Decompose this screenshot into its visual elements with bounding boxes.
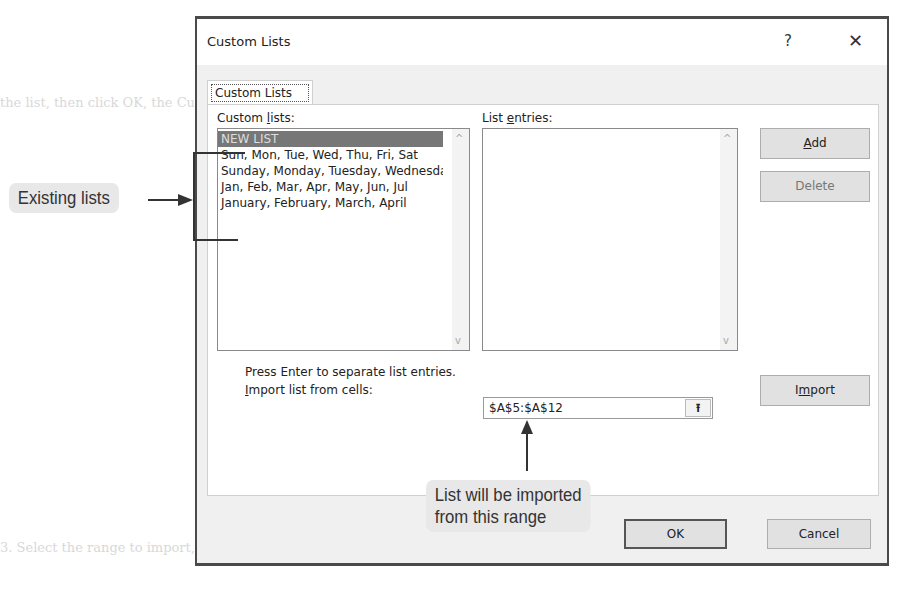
dialog-title: Custom Lists <box>207 34 290 49</box>
bracket-vertical <box>193 152 195 241</box>
tab-label: Custom Lists <box>211 84 309 102</box>
scroll-up-icon[interactable]: ^ <box>455 133 463 144</box>
list-entries-label: List entries: <box>482 111 552 125</box>
import-range-value: $A$5:$A$12 <box>489 401 563 415</box>
scroll-down-icon[interactable]: v <box>455 335 461 346</box>
import-range-label: Import list from cells: <box>245 383 373 397</box>
bracket-top <box>193 152 245 154</box>
help-button[interactable]: ? <box>784 32 792 50</box>
hint-text: Press Enter to separate list entries. <box>245 365 456 379</box>
scroll-up-icon[interactable]: ^ <box>723 133 731 144</box>
dialog-titlebar: Custom Lists ? ✕ <box>197 19 887 65</box>
tab-panel: Custom lists: NEW LIST Sun, Mon, Tue, We… <box>207 104 879 496</box>
import-range-input[interactable]: $A$5:$A$12 ⭱ <box>483 397 713 419</box>
import-button[interactable]: Import <box>760 375 870 406</box>
arrow-right-icon <box>178 194 193 206</box>
list-items: NEW LIST Sun, Mon, Tue, Wed, Thu, Fri, S… <box>218 129 469 211</box>
cancel-button[interactable]: Cancel <box>767 519 871 549</box>
list-item[interactable]: Sunday, Monday, Tuesday, Wednesday <box>218 163 443 179</box>
custom-lists-listbox[interactable]: NEW LIST Sun, Mon, Tue, Wed, Thu, Fri, S… <box>217 128 470 351</box>
callout-arrow-line <box>526 431 528 471</box>
arrow-up-icon <box>521 420 533 434</box>
list-item[interactable]: Sun, Mon, Tue, Wed, Thu, Fri, Sat <box>218 147 443 163</box>
list-entries-textarea[interactable]: ^ v <box>482 128 738 351</box>
list-item[interactable]: January, February, March, April <box>218 195 443 211</box>
callout-arrow-line <box>148 199 181 201</box>
tab-custom-lists[interactable]: Custom Lists <box>207 80 313 104</box>
ok-button[interactable]: OK <box>624 519 727 549</box>
close-button[interactable]: ✕ <box>848 30 863 51</box>
collapse-dialog-icon[interactable]: ⭱ <box>685 399 711 417</box>
scrollbar[interactable]: ^ v <box>452 129 469 350</box>
callout-existing-lists: Existing lists <box>9 183 119 213</box>
scroll-down-icon[interactable]: v <box>723 335 729 346</box>
list-item[interactable]: NEW LIST <box>218 131 443 147</box>
delete-button[interactable]: Delete <box>760 171 870 202</box>
callout-import-range: List will be imported from this range <box>426 480 590 532</box>
add-button[interactable]: Add <box>760 128 870 159</box>
scrollbar[interactable]: ^ v <box>720 129 737 350</box>
bracket-bottom <box>193 239 238 241</box>
list-item[interactable]: Jan, Feb, Mar, Apr, May, Jun, Jul <box>218 179 443 195</box>
custom-lists-label: Custom lists: <box>217 111 295 125</box>
